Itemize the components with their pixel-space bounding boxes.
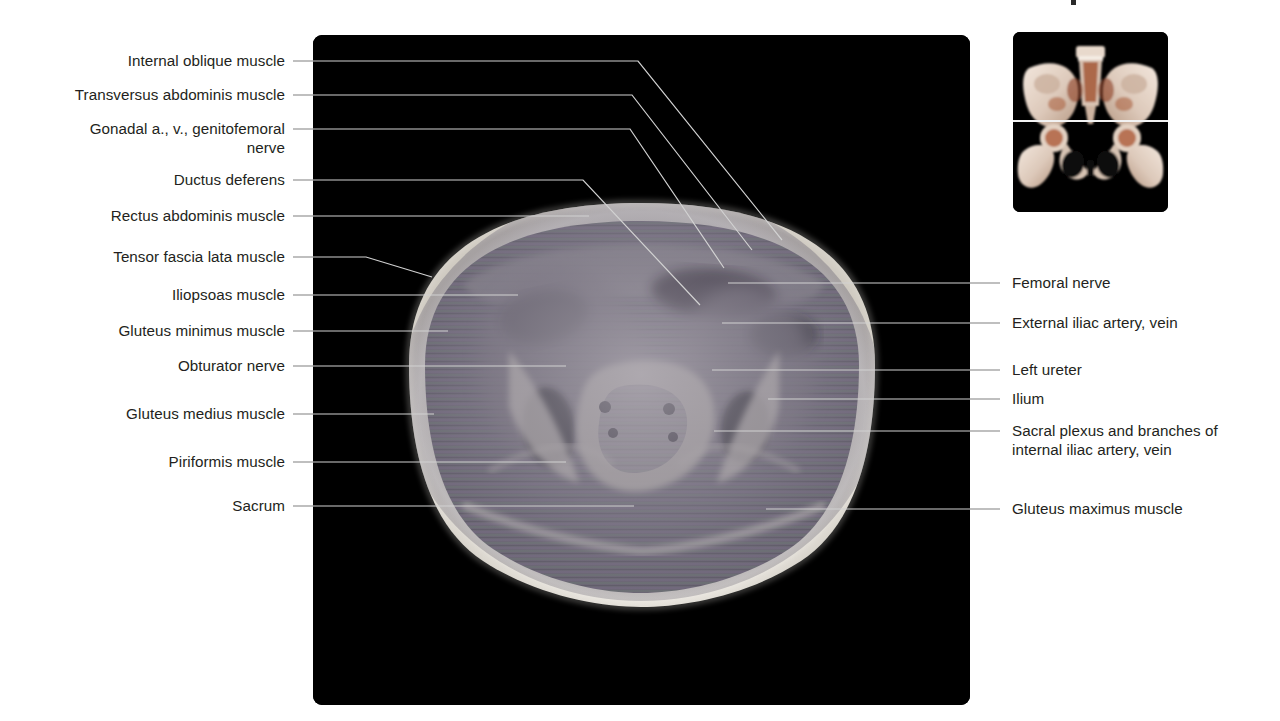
label-gluteus-maximus-muscle: Gluteus maximus muscle: [1012, 499, 1280, 518]
label-femoral-nerve: Femoral nerve: [1012, 273, 1280, 292]
label-gluteus-minimus-muscle: Gluteus minimus muscle: [0, 321, 285, 340]
label-transversus-abdominis-muscle: Transversus abdominis muscle: [0, 85, 285, 104]
label-piriformis-muscle: Piriformis muscle: [0, 452, 285, 471]
label-external-iliac-artery-vein: External iliac artery, vein: [1012, 313, 1280, 332]
label-sacrum: Sacrum: [0, 496, 285, 515]
section-level-reference-line: [1013, 120, 1168, 122]
label-iliopsoas-muscle: Iliopsoas muscle: [0, 285, 285, 304]
pelvis-bones: [1018, 46, 1163, 188]
label-sacral-plexus-internal-iliac-branches: Sacral plexus and branches of internal i…: [1012, 421, 1280, 459]
axial-mri-image: [313, 35, 970, 705]
crop-tick-mark: [1071, 0, 1076, 5]
label-ductus-deferens: Ductus deferens: [0, 170, 285, 189]
label-rectus-abdominis-muscle: Rectus abdominis muscle: [0, 206, 285, 225]
label-internal-oblique-muscle: Internal oblique muscle: [0, 51, 285, 70]
label-gluteus-medius-muscle: Gluteus medius muscle: [0, 404, 285, 423]
pelvis-3d-rendering: [1013, 32, 1168, 212]
label-ilium: Ilium: [1012, 389, 1280, 408]
label-obturator-nerve: Obturator nerve: [0, 356, 285, 375]
mri-rendering: [313, 35, 970, 705]
label-left-ureter: Left ureter: [1012, 360, 1280, 379]
label-tensor-fascia-lata-muscle: Tensor fascia lata muscle: [0, 247, 285, 266]
anatomy-figure: Internal oblique muscle Transversus abdo…: [0, 0, 1280, 721]
pelvis-orientation-inset: [1013, 32, 1168, 212]
label-gonadal-vessels-genitofemoral-nerve: Gonadal a., v., genitofemoral nerve: [0, 119, 285, 157]
